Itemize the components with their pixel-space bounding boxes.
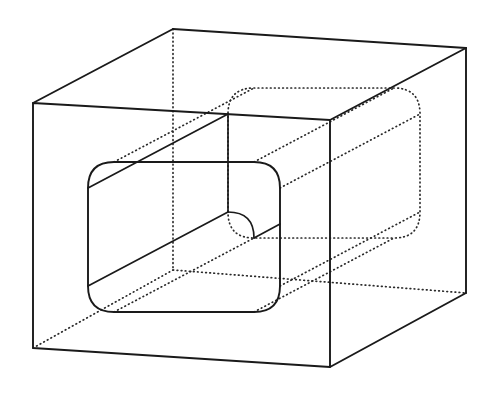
- hidden-edge-hole-top-left-receding: [114, 88, 254, 162]
- hidden-edge-hole-bottom-left-receding: [114, 238, 254, 312]
- edge-back-top: [173, 29, 466, 48]
- edge-hole-inner-corner-fillet: [228, 212, 254, 238]
- visible-line-group: [33, 29, 466, 367]
- hidden-edge-bottom-left-receding: [33, 270, 173, 348]
- hidden-edge-hole-top-right-receding: [254, 88, 394, 162]
- edge-front-hole-opening: [88, 162, 280, 312]
- technical-drawing-svg: Orthographic pictorial of a rectangular …: [0, 0, 491, 395]
- edge-hole-inner-bottom-short: [254, 224, 280, 238]
- hidden-edge-back-bottom: [173, 270, 466, 293]
- hidden-line-group: [33, 29, 466, 348]
- edge-top-right-receding: [330, 48, 466, 120]
- hidden-edge-hole-right-upper-receding: [280, 114, 420, 188]
- edge-hole-inner-left-wall-diagonal: [88, 212, 228, 286]
- hidden-edge-hole-right-lower-receding: [280, 212, 420, 286]
- edge-top-left-receding: [33, 29, 173, 103]
- edge-front-face-outline: [33, 103, 330, 367]
- hidden-edge-hole-bottom-right-receding: [254, 238, 394, 312]
- figure-canvas: Orthographic pictorial of a rectangular …: [0, 0, 491, 395]
- edge-hole-inner-top-wall-far: [88, 114, 228, 188]
- edge-bottom-right-receding: [330, 293, 466, 367]
